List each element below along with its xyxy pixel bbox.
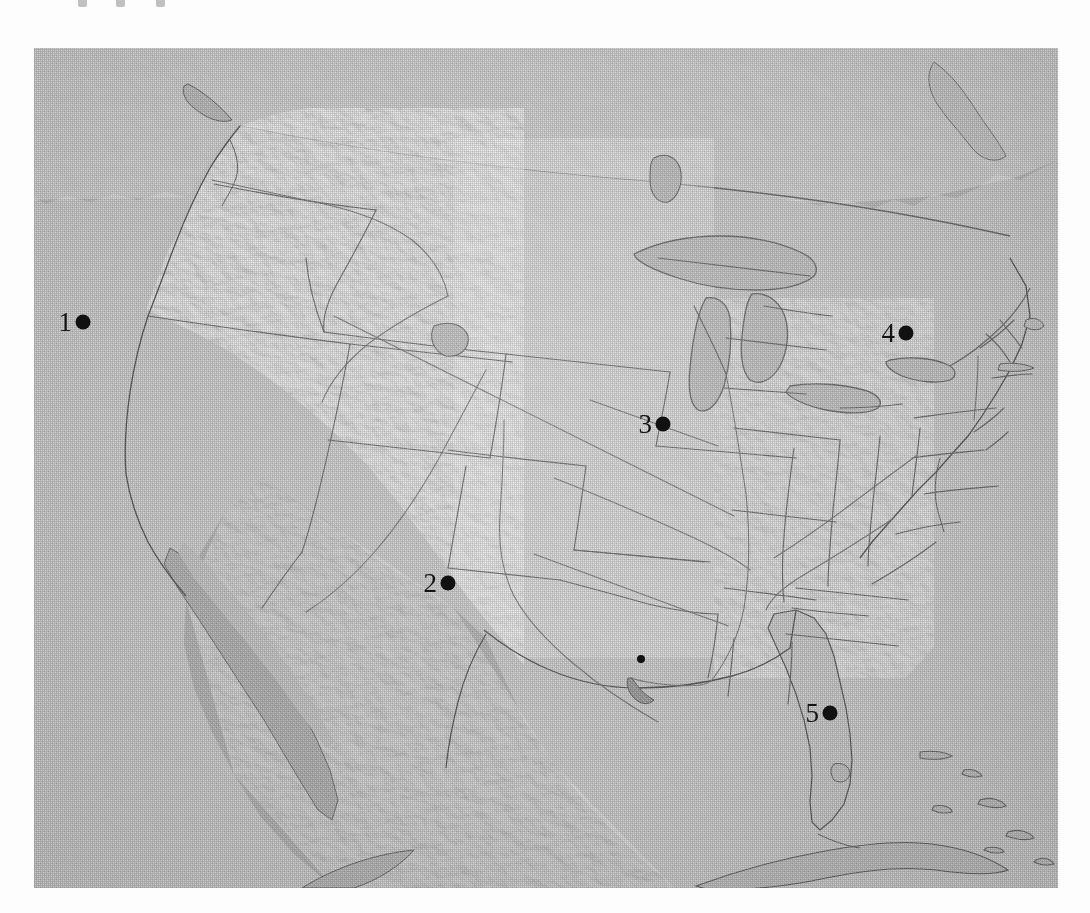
page-canvas: 12345 [0,0,1090,913]
lake-winnipeg [650,155,681,202]
page-top-ink-bleed [0,0,1090,14]
marker-4[interactable]: 4 [882,320,914,347]
map-graphic [34,48,1058,888]
marker-4-dot[interactable] [898,326,913,341]
marker-1[interactable]: 1 [59,309,91,336]
marker-unlabeled-dot[interactable] [637,655,645,663]
marker-5-dot[interactable] [822,706,837,721]
marker-2-dot[interactable] [440,576,455,591]
ink-bleed-mark-2 [116,0,125,7]
marker-3-label: 3 [639,411,656,438]
marker-1-label: 1 [59,309,76,336]
ink-bleed-mark-1 [78,0,87,7]
marker-1-dot[interactable] [75,315,90,330]
map-figure[interactable]: 12345 [34,48,1058,888]
marker-4-label: 4 [882,320,899,347]
marker-2-label: 2 [424,570,441,597]
ink-bleed-mark-3 [156,0,165,7]
marker-2[interactable]: 2 [424,570,456,597]
marker-5-label: 5 [806,700,823,727]
lake-okeechobee [831,763,850,782]
marker-unlabeled[interactable] [637,655,645,663]
marker-3[interactable]: 3 [639,411,671,438]
marker-3-dot[interactable] [655,417,670,432]
marker-5[interactable]: 5 [806,700,838,727]
